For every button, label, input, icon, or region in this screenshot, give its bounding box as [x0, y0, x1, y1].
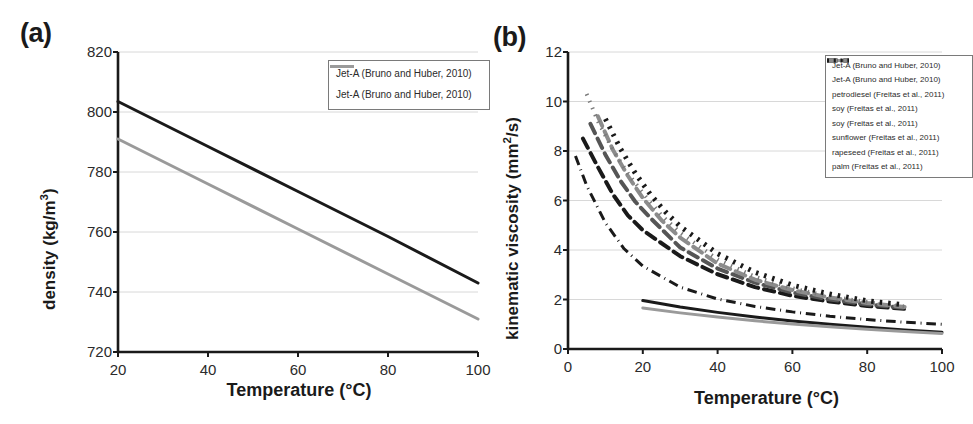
legend-item: soy (Freitas et al., 2011) — [830, 104, 969, 113]
legend-b: Jet-A (Bruno and Huber, 2010)Jet-A (Brun… — [825, 55, 973, 178]
x-tick-label: 40 — [178, 361, 238, 378]
legend-item-label: soy (Freitas et al., 2011) — [830, 119, 918, 128]
y-tick-label: 4 — [516, 241, 562, 258]
legend-item: Jet-A (Bruno and Huber, 2010) — [334, 89, 484, 101]
x-tick-label: 100 — [912, 358, 972, 375]
y-tick-label: 6 — [516, 192, 562, 209]
series-line-0 — [118, 102, 478, 284]
legend-item-label: soy (Freitas et al., 2011) — [830, 104, 918, 113]
y-tick-label: 740 — [66, 283, 112, 300]
y-tick-label: 800 — [66, 103, 112, 120]
legend-item-label: sunflower (Freitas et al., 2011) — [830, 133, 939, 142]
x-tick-label: 40 — [688, 358, 748, 375]
legend-item: sunflower (Freitas et al., 2011) — [830, 133, 969, 142]
x-tick-label: 20 — [88, 361, 148, 378]
legend-item-label: Jet-A (Bruno and Huber, 2010) — [334, 89, 472, 101]
x-tick-label: 60 — [762, 358, 822, 375]
panel-a: (a) density (kg/m3) Temperature (°C) 720… — [0, 0, 485, 424]
y-tick-label: 720 — [66, 343, 112, 360]
legend-key-icon — [329, 61, 355, 72]
x-tick-label: 20 — [613, 358, 673, 375]
y-tick-label: 2 — [516, 291, 562, 308]
legend-item: soy (Freitas et al., 2011) — [830, 119, 969, 128]
panel-b: (b) kinematic viscosity (mm2/s) Temperat… — [485, 0, 970, 424]
legend-item-label: rapeseed (Freitas et al., 2011) — [830, 148, 939, 157]
y-tick-label: 10 — [516, 93, 562, 110]
y-tick-label: 0 — [516, 340, 562, 357]
legend-item: Jet-A (Bruno and Huber, 2010) — [334, 68, 484, 80]
legend-item: rapeseed (Freitas et al., 2011) — [830, 148, 969, 157]
legend-item-label: petrodiesel (Freitas et al., 2011) — [830, 90, 944, 99]
y-tick-label: 760 — [66, 223, 112, 240]
x-tick-label: 80 — [358, 361, 418, 378]
legend-item-label: Jet-A (Bruno and Huber, 2010) — [830, 75, 941, 84]
legend-item: Jet-A (Bruno and Huber, 2010) — [830, 61, 969, 70]
legend-item: Jet-A (Bruno and Huber, 2010) — [830, 75, 969, 84]
y-tick-label: 820 — [66, 43, 112, 60]
legend-item: petrodiesel (Freitas et al., 2011) — [830, 90, 969, 99]
y-tick-label: 8 — [516, 142, 562, 159]
legend-item: palm (Freitas et al., 2011) — [830, 162, 969, 171]
series-group — [118, 102, 478, 320]
legend-item-label: palm (Freitas et al., 2011) — [830, 162, 923, 171]
x-tick-label: 60 — [268, 361, 328, 378]
x-tick-label: 80 — [837, 358, 897, 375]
y-tick-label: 780 — [66, 163, 112, 180]
y-tick-label: 12 — [516, 43, 562, 60]
legend-a: Jet-A (Bruno and Huber, 2010)Jet-A (Brun… — [328, 60, 490, 110]
x-tick-label: 0 — [538, 358, 598, 375]
legend-key-icon — [826, 56, 850, 65]
